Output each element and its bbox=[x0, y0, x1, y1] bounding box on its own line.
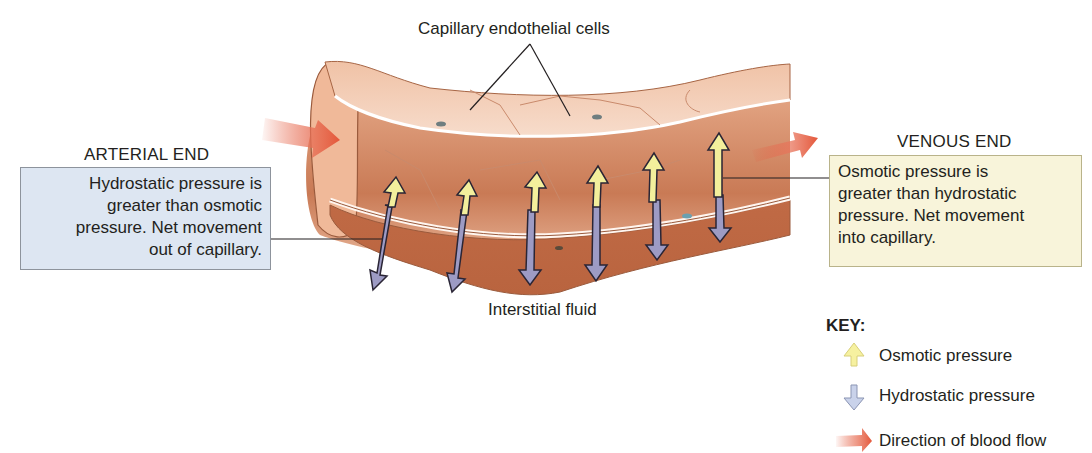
key-item-blood-flow: Direction of blood flow bbox=[879, 431, 1046, 451]
key-item-osmotic: Osmotic pressure bbox=[879, 346, 1012, 366]
arterial-end-box: Hydrostatic pressure is greater than osm… bbox=[20, 167, 271, 270]
venous-end-title: VENOUS END bbox=[897, 132, 1011, 152]
key-icons bbox=[836, 343, 872, 452]
venous-line: into capillary. bbox=[838, 227, 1073, 249]
arterial-line: greater than osmotic bbox=[29, 195, 262, 217]
venous-line: greater than hydrostatic bbox=[838, 183, 1073, 205]
right-arrow-red-icon bbox=[836, 428, 872, 452]
endothelial-cells-label: Capillary endothelial cells bbox=[418, 19, 610, 39]
nucleus bbox=[682, 214, 692, 219]
down-arrow-blue-icon bbox=[844, 385, 864, 410]
interstitial-fluid-label: Interstitial fluid bbox=[488, 300, 597, 320]
venous-end-box: Osmotic pressure is greater than hydrost… bbox=[829, 155, 1082, 267]
up-arrow-yellow-icon bbox=[844, 343, 864, 366]
nucleus bbox=[436, 122, 446, 127]
arterial-line: out of capillary. bbox=[29, 239, 262, 261]
nucleus bbox=[555, 246, 563, 250]
nucleus bbox=[592, 115, 602, 120]
arterial-end-title: ARTERIAL END bbox=[84, 145, 209, 165]
key-item-hydrostatic: Hydrostatic pressure bbox=[879, 386, 1035, 406]
key-title: KEY: bbox=[826, 316, 865, 336]
arterial-line: Hydrostatic pressure is bbox=[29, 173, 262, 195]
venous-line: Osmotic pressure is bbox=[838, 161, 1073, 183]
arterial-line: pressure. Net movement bbox=[29, 217, 262, 239]
venous-line: pressure. Net movement bbox=[838, 205, 1073, 227]
